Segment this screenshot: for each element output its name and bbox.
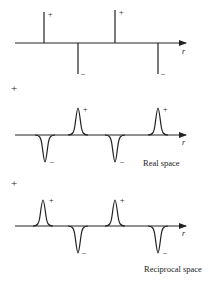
real-space-panel: r – + – + Real space <box>15 105 186 168</box>
axis-label-r: r <box>182 229 186 238</box>
caption-reciprocal-space: Reciprocal space <box>144 264 202 274</box>
sign-label: + <box>49 196 54 205</box>
sign-label: – <box>49 157 55 166</box>
sign-label: – <box>80 69 86 78</box>
axis-label-r: r <box>182 138 186 147</box>
reciprocal-space-panel: r + – + – Reciprocal space <box>15 196 202 274</box>
diagram-canvas: r + – + – + r – + – + Real space + r + –… <box>0 0 210 283</box>
sign-label: – <box>119 157 125 166</box>
sign-label: + <box>119 8 124 17</box>
axis-label-r: r <box>182 47 186 56</box>
delta-panel: r + – + – <box>15 8 186 78</box>
sign-label: – <box>160 69 166 78</box>
sign-label: – <box>162 248 168 257</box>
sign-label: + <box>163 105 168 114</box>
caption-real-space: Real space <box>143 158 180 168</box>
sign-label: + <box>48 10 53 19</box>
sign-label: + <box>83 105 88 114</box>
sign-label: – <box>81 248 87 257</box>
sign-label: + <box>120 196 125 205</box>
side-marker: + <box>11 82 17 94</box>
side-marker: + <box>11 177 17 189</box>
